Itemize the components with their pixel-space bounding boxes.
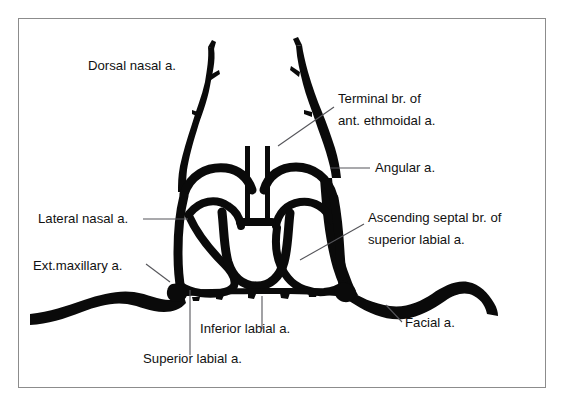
vessel-lateral-nasal-limb-right [334,198,344,290]
vessel-dorsal-nasal-right-tip [293,37,302,46]
vessel-labial-spur-2 [248,294,256,299]
vessel-facial-left [30,291,186,325]
label-ascending-septal-line-2: superior labial a. [368,232,465,247]
vessel-dorsal-nasal-right-spur-2 [304,110,312,117]
label-ext-maxillary: Ext.maxillary a. [0,0,148,273]
vessel-dorsal-nasal-right-spur-1 [290,66,300,77]
label-terminal-ant-ethmoidal-line-2: ant. ethmoidal a. [338,113,436,128]
label-angular: Angular a. [0,0,461,175]
figure-root: Dorsal nasal a. Terminal br. of ant. eth… [0,0,563,408]
label-inferior-labial-line-1: Inferior labial a. [200,321,290,336]
label-ascending-septal-line-1: Ascending septal br. of [368,210,502,225]
vessel-alar-arch-right [276,202,331,226]
label-superior-labial: Superior labial a. [0,0,268,366]
vessel-labial-spur-3 [280,293,290,299]
vessel-alar-arch-left [189,201,241,226]
label-terminal-ant-ethmoidal-line-1: Terminal br. of [338,91,421,106]
leader-ext-maxillary [146,264,170,282]
label-dorsal-nasal: Dorsal nasal a. [88,58,202,73]
artery-network [30,37,498,325]
vessel-lateral-nasal-arch-left [184,168,252,194]
vessel-facial-right [338,282,498,320]
label-angular-line-1: Angular a. [375,160,435,175]
label-terminal-ant-ethmoidal: Terminal br. of ant. ethmoidal a. [0,0,461,128]
vessel-labial-spur-5 [192,297,200,301]
vessel-labial-spur-4 [308,292,318,297]
label-lateral-nasal: Lateral nasal a. [0,0,154,226]
label-lateral-nasal-line-1: Lateral nasal a. [38,211,128,226]
vessel-dorsal-nasal-right [296,45,341,178]
label-facial-line-1: Facial a. [405,315,455,330]
label-ext-maxillary-line-1: Ext.maxillary a. [33,258,122,273]
anatomy-diagram: Dorsal nasal a. Terminal br. of ant. eth… [0,0,563,408]
label-dorsal-nasal-line-1: Dorsal nasal a. [88,58,176,73]
label-superior-labial-line-1: Superior labial a. [143,351,242,366]
vessel-lateral-nasal-limb-left [178,196,184,290]
vessel-labial-spur-1 [216,295,224,300]
